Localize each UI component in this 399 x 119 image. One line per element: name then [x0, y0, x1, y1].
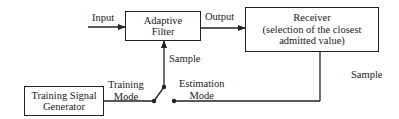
- receiver-line2: (selection of the closest: [263, 24, 362, 36]
- adaptive-filter-line1: Adaptive: [144, 15, 183, 27]
- receiver-block: Receiver (selection of the closest admit…: [245, 7, 379, 52]
- training-mode-line2: Mode: [108, 91, 144, 103]
- training-mode-line1: Training: [108, 79, 144, 91]
- estimation-mode-label: Estimation Mode: [179, 78, 225, 101]
- adaptive-filter-block: Adaptive Filter: [125, 11, 201, 41]
- adaptive-filter-line2: Filter: [152, 26, 175, 38]
- receiver-line1: Receiver: [293, 12, 330, 24]
- training-generator-block: Training Signal Generator: [24, 86, 104, 116]
- receiver-line3: admitted value): [279, 35, 345, 47]
- estimation-mode-line1: Estimation: [179, 78, 225, 90]
- estimation-contact-dot: [172, 99, 176, 103]
- training-generator-line2: Generator: [43, 101, 85, 113]
- training-mode-label: Training Mode: [108, 79, 144, 102]
- output-label: Output: [205, 11, 234, 23]
- training-generator-line1: Training Signal: [31, 90, 96, 102]
- sample-label-right: Sample: [351, 69, 383, 81]
- input-label: Input: [92, 12, 114, 24]
- switch-arm: [154, 87, 164, 101]
- switch-pivot-dot: [162, 85, 166, 89]
- estimation-mode-line2: Mode: [179, 90, 225, 102]
- training-contact-dot: [152, 99, 156, 103]
- sample-label-center: Sample: [169, 53, 201, 65]
